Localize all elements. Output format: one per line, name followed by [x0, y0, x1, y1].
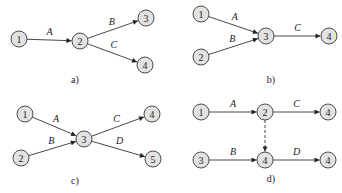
node-label: 1 — [23, 109, 28, 120]
activity-label: C — [111, 39, 118, 50]
panel-caption-d: d) — [267, 173, 275, 185]
event-node-3: 3 — [76, 131, 92, 147]
arrow-line — [27, 39, 72, 40]
node-label: 2 — [78, 36, 83, 47]
event-node-1: 1 — [17, 106, 33, 122]
activity-arrow-A: A — [209, 11, 258, 33]
activity-label: A — [231, 11, 239, 22]
panel-d: ACBD124344 — [193, 98, 336, 168]
activity-arrow-B: B — [88, 16, 138, 39]
event-node-3: 3 — [138, 10, 154, 26]
event-node-4: 4 — [144, 106, 160, 122]
activity-label: C — [294, 22, 301, 33]
activity-arrow-C: C — [88, 39, 138, 62]
event-node-3: 3 — [193, 152, 209, 168]
node-label: 2 — [263, 107, 268, 118]
activity-arrow-A: A — [27, 26, 72, 41]
activity-label: B — [48, 135, 54, 146]
node-label: 3 — [144, 13, 149, 24]
event-node-4: 4 — [137, 57, 153, 73]
event-node-4: 4 — [257, 152, 273, 168]
node-label: 3 — [82, 134, 87, 145]
node-label: 1 — [17, 34, 22, 45]
node-label: 4 — [150, 109, 155, 120]
event-node-3: 3 — [258, 28, 274, 44]
activity-arrow-B: B — [29, 135, 76, 156]
activity-label: C — [113, 113, 120, 124]
activity-arrow-C: C — [92, 113, 145, 136]
panel-b: ABC1234 — [193, 6, 337, 65]
node-label: 5 — [151, 154, 156, 165]
node-label: 3 — [199, 155, 204, 166]
activity-arrow-D: D — [273, 146, 320, 160]
panel-c: ABCD12345 — [13, 106, 161, 167]
activity-label: A — [229, 98, 237, 109]
event-node-2: 2 — [257, 104, 273, 120]
event-node-1: 1 — [11, 31, 27, 47]
panel-caption-b: b) — [267, 74, 275, 86]
activity-arrow-A: A — [32, 113, 76, 136]
activity-arrow-B: B — [209, 146, 257, 160]
activity-label: A — [52, 113, 60, 124]
panel-caption-c: c) — [71, 175, 79, 187]
node-label: 4 — [327, 31, 332, 42]
activity-arrow-C: C — [273, 98, 320, 112]
event-node-5: 5 — [145, 151, 161, 167]
node-label: 1 — [199, 107, 204, 118]
node-label: 4 — [263, 155, 268, 166]
event-node-2: 2 — [13, 150, 29, 166]
network-diagram: ABC1234ABC1234ABCD12345ACBD124344 a)b)c)… — [0, 0, 342, 193]
activity-label: D — [292, 146, 301, 157]
activity-label: B — [109, 16, 115, 27]
node-label: 4 — [326, 107, 331, 118]
node-label: 4 — [326, 155, 331, 166]
event-node-2: 2 — [72, 33, 88, 49]
node-label: 1 — [199, 9, 204, 20]
event-node-4: 4 — [320, 152, 336, 168]
activity-arrow-A: A — [209, 98, 257, 112]
activity-label: D — [115, 135, 124, 146]
node-label: 2 — [19, 153, 24, 164]
event-node-1: 1 — [193, 6, 209, 22]
node-label: 2 — [199, 52, 204, 63]
node-label: 3 — [264, 31, 269, 42]
node-label: 4 — [143, 60, 148, 71]
panel-a: ABC1234 — [11, 10, 154, 73]
activity-label: A — [46, 26, 54, 37]
activity-arrow-B: B — [209, 33, 258, 55]
activity-label: C — [293, 98, 300, 109]
event-node-1: 1 — [193, 104, 209, 120]
activity-label: B — [229, 33, 235, 44]
panel-caption-a: a) — [71, 74, 79, 86]
event-node-4: 4 — [320, 104, 336, 120]
activity-label: B — [230, 146, 236, 157]
event-node-4: 4 — [321, 28, 337, 44]
event-node-2: 2 — [193, 49, 209, 65]
activity-arrow-D: D — [92, 135, 145, 156]
activity-arrow-C: C — [274, 22, 321, 36]
